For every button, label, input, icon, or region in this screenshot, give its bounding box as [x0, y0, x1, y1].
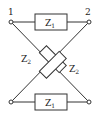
terminal-top-right	[87, 20, 91, 24]
terminal-label-2: 2	[85, 7, 91, 17]
lattice-network-diagram: 1 2 Z1 Z1 Z2 Z2	[0, 0, 100, 117]
terminal-top-left	[9, 20, 13, 24]
terminal-bottom-left	[9, 100, 13, 104]
terminal-label-1: 1	[8, 7, 14, 17]
z2-right-label: Z2	[69, 64, 79, 75]
z2-left-label: Z2	[21, 54, 31, 65]
terminal-bottom-right	[87, 100, 91, 104]
